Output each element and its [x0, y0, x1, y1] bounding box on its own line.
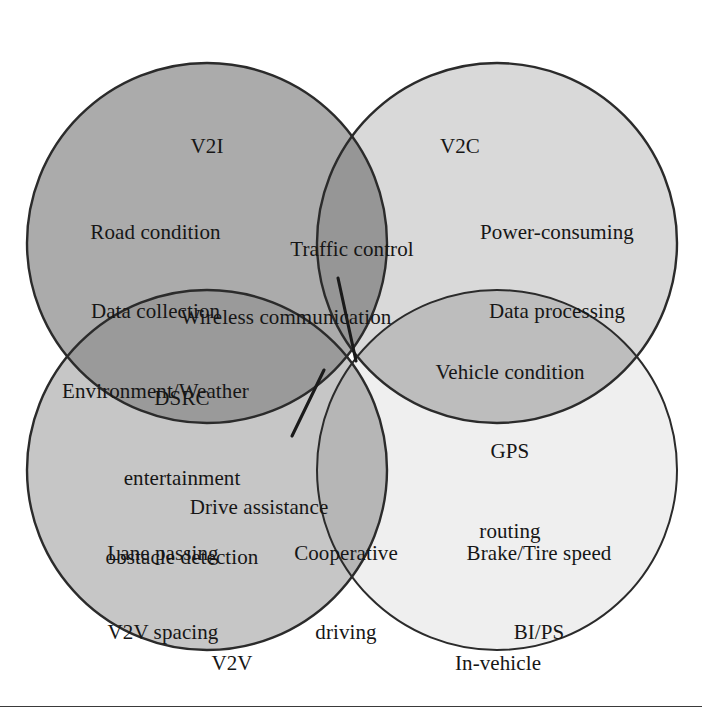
- venn-diagram: V2I V2C V2V In-vehicle Road condition Da…: [0, 0, 702, 714]
- bottom-divider: [0, 706, 702, 707]
- venn-circles-canvas: [0, 0, 702, 714]
